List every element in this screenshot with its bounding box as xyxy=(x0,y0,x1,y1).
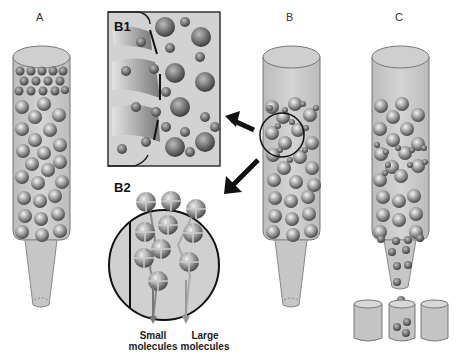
inset-b1 xyxy=(108,12,220,166)
legend-large-molecules: Large molecules xyxy=(175,330,235,352)
arrow-to-b2 xyxy=(224,160,258,194)
tube-3 xyxy=(421,300,448,341)
legend-large-line2: molecules xyxy=(175,341,235,352)
panel-label-a: A xyxy=(36,11,43,23)
panel-label-b2: B2 xyxy=(114,180,131,195)
panel-label-b: B xyxy=(286,11,293,23)
tube-1 xyxy=(354,300,382,341)
panel-label-b1: B1 xyxy=(114,19,131,34)
tube-2 xyxy=(389,300,415,341)
column-c xyxy=(354,46,448,341)
collection-tubes xyxy=(354,300,448,341)
legend-small-line1: Small xyxy=(125,330,181,341)
column-b xyxy=(260,46,321,307)
panel-label-c: C xyxy=(395,11,403,23)
legend-large-line1: Large xyxy=(175,330,235,341)
legend-small-line2: molecules xyxy=(125,341,181,352)
legend-small-molecules: Small molecules xyxy=(125,330,181,352)
column-a xyxy=(13,46,70,307)
inset-b2 xyxy=(109,191,219,324)
arrow-to-b1 xyxy=(225,111,254,130)
diagram-canvas xyxy=(0,0,458,363)
